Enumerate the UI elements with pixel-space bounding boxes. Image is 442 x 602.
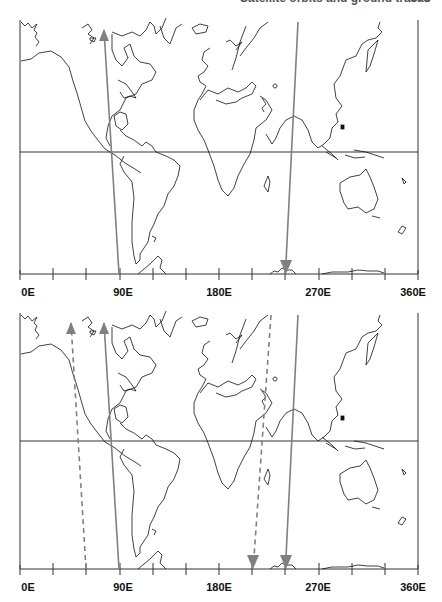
axis-label-90E: 90E bbox=[113, 581, 133, 593]
bottom-panel: 0E 90E 180E 270E 360E bbox=[0, 295, 442, 602]
orbit-tracks bbox=[104, 22, 298, 274]
descending-arrowhead-solid bbox=[280, 555, 292, 569]
descending-track-dashed bbox=[254, 315, 271, 557]
world-map-bottom bbox=[0, 295, 442, 602]
ascending-track-solid bbox=[104, 323, 119, 569]
top-panel: 0E 90E 180E 270E 360E bbox=[0, 0, 442, 300]
map-frame bbox=[20, 313, 418, 575]
axis-label-0E: 0E bbox=[21, 581, 34, 593]
descending-arrowhead-dashed bbox=[247, 555, 259, 569]
map-frame bbox=[20, 20, 418, 280]
descending-track-solid bbox=[286, 315, 298, 557]
axis-label-180E: 180E bbox=[206, 581, 232, 593]
coastlines bbox=[21, 18, 406, 274]
world-map-top bbox=[0, 0, 442, 300]
descending-track-solid bbox=[286, 22, 298, 262]
axis-label-270E: 270E bbox=[305, 581, 331, 593]
descending-arrowhead bbox=[280, 260, 292, 274]
ascending-track-dashed bbox=[71, 323, 86, 569]
axis-label-360E: 360E bbox=[400, 581, 426, 593]
